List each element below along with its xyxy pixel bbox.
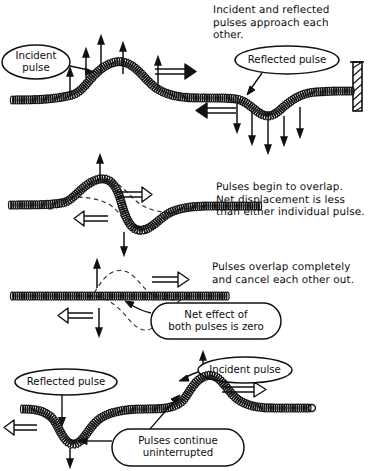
velocity-arrow-right-3 <box>152 272 189 287</box>
velocity-arrow-left-3 <box>58 308 93 323</box>
callout-net-effect-3[interactable] <box>125 301 281 339</box>
velocity-arrow-left-1 <box>196 103 236 118</box>
velocity-arrow-right-1 <box>155 64 196 79</box>
down-arrow-4 <box>67 448 73 467</box>
caption-panel-3: Pulses overlap completely and cancel eac… <box>212 261 383 286</box>
velocity-arrow-left-4 <box>4 420 37 435</box>
caption-panel-2: Pulses begin to overlap. Net displacemen… <box>216 181 383 219</box>
velocity-arrow-left-2 <box>74 211 108 226</box>
figure-canvas: Incident pulse Reflected pulse Incident … <box>0 0 383 471</box>
up-arrow-3 <box>94 260 100 288</box>
rope-end-cap <box>309 405 316 412</box>
down-arrow-2 <box>121 232 127 255</box>
physics-diagram-artwork <box>0 0 383 471</box>
down-arrow-3 <box>96 308 102 336</box>
callout-incident-pulse-1[interactable] <box>2 45 94 79</box>
caption-panel-1: Incident and reflected pulses approach e… <box>213 4 383 42</box>
